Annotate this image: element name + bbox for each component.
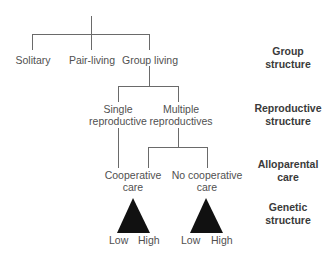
triangle1-high-label: High — [138, 234, 160, 246]
level-label-line2: structure — [248, 115, 328, 128]
single-reproductive-line1: Single — [84, 103, 152, 115]
triangle2-low-label: Low — [181, 234, 200, 246]
cooperative-care-line1: Cooperative — [98, 169, 168, 181]
level-label-line1: Reproductive — [248, 102, 328, 115]
node-solitary: Solitary — [5, 54, 61, 66]
cooperative-care-line2: care — [98, 181, 168, 193]
node-cooperative-care: Cooperative care — [98, 169, 168, 193]
no-cooperative-care-line2: care — [168, 181, 246, 193]
node-no-cooperative-care: No cooperative care — [168, 169, 246, 193]
node-multiple-reproductives: Multiple reproductives — [144, 103, 218, 127]
multiple-reproductives-line1: Multiple — [144, 103, 218, 115]
level-label-line2: care — [248, 171, 328, 184]
level-label-line2: structure — [248, 214, 328, 227]
genetic-structure-triangle-2 — [190, 198, 223, 233]
level-label-group-structure: Group structure — [248, 45, 328, 71]
level-label-reproductive-structure: Reproductive structure — [248, 102, 328, 128]
level-label-line1: Alloparental — [248, 158, 328, 171]
multiple-reproductives-line2: reproductives — [144, 115, 218, 127]
single-reproductive-line2: reproductive — [84, 115, 152, 127]
level-label-line1: Genetic — [248, 201, 328, 214]
level-label-line1: Group — [248, 45, 328, 58]
no-cooperative-care-line1: No cooperative — [168, 169, 246, 181]
genetic-structure-triangle-1 — [117, 198, 150, 233]
node-group-living: Group living — [118, 54, 182, 66]
level-label-alloparental-care: Alloparental care — [248, 158, 328, 184]
triangle2-high-label: High — [211, 234, 233, 246]
node-pair-living: Pair-living — [63, 54, 121, 66]
level-label-genetic-structure: Genetic structure — [248, 201, 328, 227]
node-single-reproductive: Single reproductive — [84, 103, 152, 127]
triangle1-low-label: Low — [109, 234, 128, 246]
level-label-line2: structure — [248, 58, 328, 71]
